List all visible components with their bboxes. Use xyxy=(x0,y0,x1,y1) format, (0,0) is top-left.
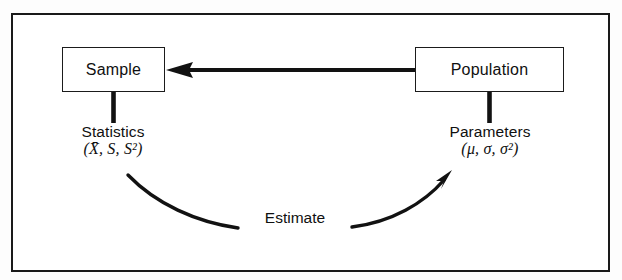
estimate-label: Estimate xyxy=(242,209,348,226)
node-population-label: Population xyxy=(451,62,529,78)
term-parameters-symbols: (μ, σ, σ²) xyxy=(420,141,560,158)
term-statistics-name: Statistics xyxy=(48,124,178,140)
statistics-population-diagram: Sample Population Statistics (X̄, S, S²)… xyxy=(0,0,622,280)
term-parameters: Parameters (μ, σ, σ²) xyxy=(420,124,560,158)
term-statistics: Statistics (X̄, S, S²) xyxy=(48,124,178,158)
node-sample[interactable]: Sample xyxy=(62,47,165,92)
node-population[interactable]: Population xyxy=(415,47,564,92)
term-parameters-name: Parameters xyxy=(420,124,560,140)
node-sample-label: Sample xyxy=(86,62,141,78)
term-statistics-symbols: (X̄, S, S²) xyxy=(48,141,178,158)
